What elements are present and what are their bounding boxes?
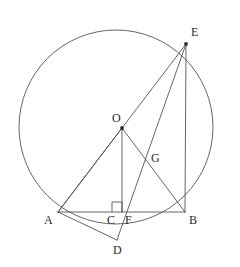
right-angle-marker-icon: [112, 202, 122, 212]
geometry-figure-svg: [0, 0, 240, 267]
point-label-F: F: [125, 214, 132, 226]
main-circle: [19, 30, 213, 224]
vertex-dot-O: [120, 126, 124, 130]
vertex-dot-E: [184, 42, 188, 46]
point-label-E: E: [191, 26, 198, 38]
point-label-C: C: [107, 214, 115, 226]
point-label-B: B: [189, 214, 197, 226]
segment-AO: [58, 128, 122, 212]
point-label-O: O: [112, 112, 121, 124]
point-label-D: D: [113, 244, 122, 256]
segment-EB: [185, 44, 186, 212]
point-label-G: G: [151, 152, 160, 164]
geometry-diagram: O A B C D E F G: [0, 0, 240, 267]
point-label-A: A: [44, 214, 53, 226]
segment-ED: [117, 44, 186, 240]
